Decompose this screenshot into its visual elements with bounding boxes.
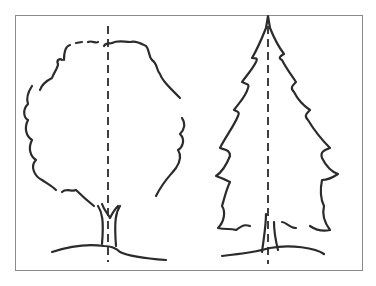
- deciduous-crown-outline: [24, 41, 184, 206]
- deciduous-ground: [52, 245, 166, 260]
- conifer-outline: [216, 16, 338, 231]
- tree-drawing: [0, 0, 376, 286]
- conifer-tree: [216, 16, 338, 264]
- deciduous-trunk: [98, 204, 120, 246]
- conifer-ground: [222, 246, 324, 256]
- deciduous-tree: [24, 26, 184, 262]
